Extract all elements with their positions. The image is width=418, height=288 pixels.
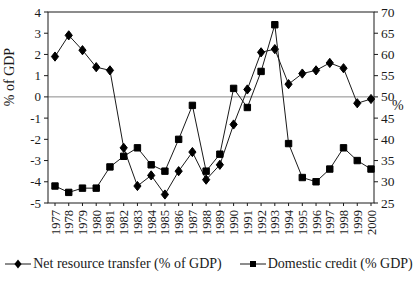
legend-item-0: Net resource transfer (% of GDP) bbox=[5, 256, 222, 272]
right-axis-tick-label: 70 bbox=[381, 5, 395, 20]
right-axis-tick-label: 60 bbox=[381, 47, 395, 62]
right-axis-title: % bbox=[392, 98, 404, 113]
left-axis-tick-label: -3 bbox=[30, 153, 41, 168]
right-axis-tick-label: 40 bbox=[381, 132, 395, 147]
x-axis-tick-label: 1988 bbox=[200, 210, 214, 235]
left-axis-tick-label: 4 bbox=[35, 5, 42, 20]
diamond-marker bbox=[312, 66, 319, 75]
chart-legend: Net resource transfer (% of GDP)Domestic… bbox=[0, 256, 418, 272]
left-axis-tick-label: -5 bbox=[30, 196, 41, 211]
right-axis-tick-label: 55 bbox=[381, 68, 395, 83]
series-line-0 bbox=[55, 35, 371, 194]
square-marker bbox=[203, 168, 209, 174]
square-marker bbox=[175, 136, 181, 142]
x-axis-tick-label: 1977 bbox=[49, 210, 63, 235]
x-axis-tick-label: 1980 bbox=[90, 210, 104, 235]
left-axis-tick-label: 0 bbox=[35, 89, 42, 104]
legend-label-0: Net resource transfer (% of GDP) bbox=[33, 256, 222, 272]
square-marker bbox=[272, 22, 278, 28]
square-marker-icon bbox=[240, 258, 266, 270]
diamond-marker bbox=[134, 181, 141, 190]
right-axis-tick-label: 65 bbox=[381, 26, 395, 41]
square-marker bbox=[313, 179, 319, 185]
diamond-marker bbox=[106, 66, 113, 75]
left-axis-tick-label: 1 bbox=[35, 68, 42, 83]
diamond-marker bbox=[244, 85, 251, 94]
x-axis-tick-label: 1984 bbox=[145, 209, 159, 235]
x-axis-tick-label: 2000 bbox=[365, 210, 379, 235]
square-marker bbox=[93, 185, 99, 191]
square-marker bbox=[162, 168, 168, 174]
chart-plot-area: 43210-1-2-3-4-57065605550454035302519771… bbox=[0, 0, 418, 256]
diamond-marker bbox=[299, 69, 306, 78]
x-axis-tick-label: 1985 bbox=[158, 210, 172, 235]
square-marker bbox=[244, 104, 250, 110]
diamond-marker bbox=[257, 48, 264, 57]
square-marker bbox=[189, 102, 195, 108]
x-axis-tick-label: 1998 bbox=[337, 210, 351, 235]
left-axis-tick-label: 3 bbox=[35, 26, 42, 41]
square-marker bbox=[299, 174, 305, 180]
square-marker bbox=[52, 183, 58, 189]
x-axis-tick-label: 1991 bbox=[241, 210, 255, 235]
left-axis-tick-label: 2 bbox=[35, 47, 42, 62]
square-marker bbox=[354, 157, 360, 163]
left-axis-tick-label: -2 bbox=[30, 132, 41, 147]
x-axis-tick-label: 1990 bbox=[227, 210, 241, 235]
x-axis-tick-label: 1983 bbox=[131, 210, 145, 235]
square-marker bbox=[368, 166, 374, 172]
x-axis-tick-label: 1982 bbox=[117, 210, 131, 235]
legend-label-1: Domestic credit (% GDP) bbox=[268, 256, 413, 272]
x-axis-tick-label: 1987 bbox=[186, 210, 200, 235]
square-marker bbox=[340, 145, 346, 151]
right-axis-tick-label: 35 bbox=[381, 153, 395, 168]
square-marker bbox=[148, 162, 154, 168]
square-marker bbox=[66, 189, 72, 195]
diamond-marker bbox=[340, 64, 347, 73]
x-axis-tick-label: 1997 bbox=[323, 210, 337, 235]
square-marker bbox=[230, 85, 236, 91]
square-marker bbox=[217, 151, 223, 157]
x-axis-tick-label: 1999 bbox=[351, 210, 365, 235]
diamond-marker bbox=[354, 99, 361, 108]
right-axis-tick-label: 30 bbox=[381, 174, 395, 189]
square-marker bbox=[134, 145, 140, 151]
square-marker bbox=[327, 166, 333, 172]
legend-item-1: Domestic credit (% GDP) bbox=[240, 256, 413, 272]
diamond-marker bbox=[230, 120, 237, 129]
right-axis-tick-label: 25 bbox=[381, 196, 395, 211]
x-axis-tick-label: 1978 bbox=[62, 210, 76, 235]
square-marker bbox=[258, 68, 264, 74]
square-marker bbox=[120, 153, 126, 159]
diamond-marker bbox=[285, 80, 292, 89]
series-line-1 bbox=[55, 25, 371, 193]
left-axis-title: % of GDP bbox=[2, 48, 17, 107]
diamond-marker bbox=[120, 143, 127, 152]
left-axis-tick-label: -1 bbox=[30, 111, 41, 126]
x-axis-tick-label: 1993 bbox=[268, 210, 282, 235]
x-axis-tick-label: 1979 bbox=[76, 210, 90, 235]
left-axis-tick-label: -4 bbox=[30, 174, 41, 189]
square-marker bbox=[107, 164, 113, 170]
chart-figure: 43210-1-2-3-4-57065605550454035302519771… bbox=[0, 0, 418, 288]
x-axis-tick-label: 1992 bbox=[255, 210, 269, 235]
x-axis-tick-label: 1995 bbox=[296, 210, 310, 235]
diamond-marker-icon bbox=[5, 258, 31, 270]
x-axis-tick-label: 1986 bbox=[172, 210, 186, 235]
x-axis-tick-label: 1994 bbox=[282, 209, 296, 235]
square-marker bbox=[285, 140, 291, 146]
x-axis-tick-label: 1989 bbox=[213, 210, 227, 235]
x-axis-tick-label: 1996 bbox=[310, 210, 324, 235]
x-axis-tick-label: 1981 bbox=[103, 210, 117, 235]
diamond-marker bbox=[326, 58, 333, 67]
square-marker bbox=[79, 185, 85, 191]
